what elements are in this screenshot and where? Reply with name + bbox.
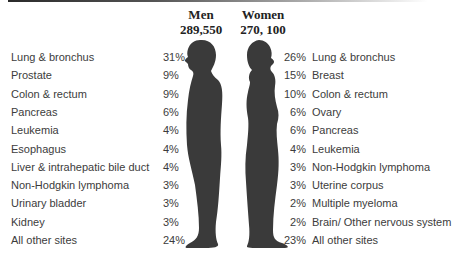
men-site-percent: 4%: [163, 161, 179, 174]
men-site-percent: 24%: [163, 234, 185, 247]
men-site-percent: 4%: [163, 143, 179, 156]
men-site-label: Liver & intrahepatic bile duct: [11, 161, 149, 174]
women-site-label: Non-Hodgkin lymphoma: [312, 161, 430, 174]
men-site-percent: 4%: [163, 124, 179, 137]
women-site-percent: 6%: [275, 106, 306, 119]
women-site-label: Ovary: [312, 106, 341, 119]
women-site-label: Lung & bronchus: [312, 51, 395, 64]
men-site-percent: 3%: [163, 197, 179, 210]
men-site-label: Pancreas: [11, 106, 57, 119]
women-site-percent: 2%: [275, 197, 306, 210]
women-site-percent: 4%: [275, 143, 306, 156]
men-site-label: Prostate: [11, 69, 52, 82]
men-site-label: All other sites: [11, 234, 77, 247]
women-site-percent: 23%: [275, 234, 306, 247]
women-site-label: Leukemia: [312, 143, 360, 156]
men-site-label: Kidney: [11, 216, 45, 229]
men-site-percent: 6%: [163, 106, 179, 119]
men-site-percent: 3%: [163, 216, 179, 229]
men-site-label: Leukemia: [11, 124, 59, 137]
men-site-percent: 3%: [163, 179, 179, 192]
women-site-percent: 26%: [275, 51, 306, 64]
women-site-label: Pancreas: [312, 124, 358, 137]
women-site-label: Multiple myeloma: [312, 197, 398, 210]
women-site-percent: 6%: [275, 124, 306, 137]
women-site-label: Brain/ Other nervous system: [312, 216, 451, 229]
women-site-percent: 2%: [275, 216, 306, 229]
male-silhouette-icon: [185, 40, 222, 248]
women-site-percent: 3%: [275, 179, 306, 192]
men-site-percent: 31%: [163, 51, 185, 64]
men-site-percent: 9%: [163, 69, 179, 82]
men-site-label: Esophagus: [11, 143, 66, 156]
women-site-label: All other sites: [312, 234, 378, 247]
men-site-label: Urinary bladder: [11, 197, 86, 210]
women-site-label: Breast: [312, 69, 344, 82]
men-site-label: Lung & bronchus: [11, 51, 94, 64]
women-site-percent: 10%: [275, 88, 306, 101]
women-site-label: Uterine corpus: [312, 179, 384, 192]
women-site-percent: 3%: [275, 161, 306, 174]
men-site-label: Colon & rectum: [11, 88, 87, 101]
women-site-label: Colon & rectum: [312, 88, 388, 101]
men-site-percent: 9%: [163, 88, 179, 101]
men-site-label: Non-Hodgkin lymphoma: [11, 179, 129, 192]
women-site-percent: 15%: [275, 69, 306, 82]
